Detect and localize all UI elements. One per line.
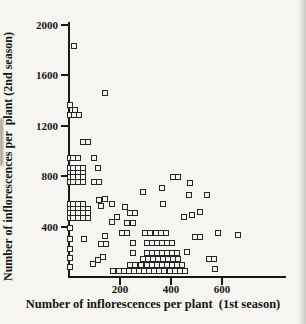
data-point-marker	[109, 201, 115, 207]
data-point-marker	[175, 174, 181, 180]
data-point-marker	[215, 230, 221, 236]
y-tick-label-800: 800	[18, 171, 58, 181]
data-point-marker	[76, 112, 82, 118]
x-axis-title: Number of inflorescences per plant (1st …	[0, 297, 306, 312]
y-tick-label-2000: 2000	[18, 20, 58, 30]
data-point-marker	[184, 249, 190, 255]
y-tick-1600	[61, 74, 69, 76]
y-tick-label-1600: 1600	[18, 70, 58, 80]
data-point-marker	[85, 139, 91, 145]
data-point-marker	[102, 233, 108, 239]
data-point-marker	[212, 266, 218, 272]
data-point-marker	[130, 220, 136, 226]
data-point-marker	[75, 155, 81, 161]
x-tick-label-600: 600	[207, 283, 237, 295]
data-point-marker	[163, 230, 169, 236]
data-point-marker	[130, 240, 136, 246]
data-point-marker	[80, 179, 86, 185]
data-point-marker	[71, 43, 77, 49]
data-point-marker	[96, 179, 102, 185]
data-point-marker	[182, 268, 188, 274]
data-point-marker	[102, 196, 108, 202]
data-point-marker	[67, 225, 73, 231]
x-tick-label-200: 200	[105, 283, 135, 295]
data-point-marker	[187, 180, 193, 186]
y-tick-label-1200: 1200	[18, 121, 58, 131]
data-point-marker	[159, 185, 165, 191]
data-point-marker	[140, 189, 146, 195]
data-point-marker	[67, 264, 73, 270]
data-point-marker	[169, 240, 175, 246]
data-point-marker	[67, 236, 73, 242]
data-point-marker	[186, 192, 192, 198]
data-point-marker	[67, 246, 73, 252]
data-point-marker	[85, 215, 91, 221]
data-point-marker	[124, 220, 130, 226]
y-tick-1200	[61, 125, 69, 127]
data-point-marker	[175, 256, 181, 262]
data-point-marker	[189, 212, 195, 218]
data-point-marker	[197, 209, 203, 215]
data-point-marker	[132, 210, 138, 216]
data-point-marker	[235, 232, 241, 238]
x-tick-label-400: 400	[156, 283, 186, 295]
y-tick-label-400: 400	[18, 222, 58, 232]
data-point-marker	[114, 214, 120, 220]
data-point-marker	[124, 230, 130, 236]
scan-smudge	[0, 118, 3, 166]
data-point-marker	[181, 214, 187, 220]
data-point-marker	[204, 192, 210, 198]
y-tick-2000	[61, 24, 69, 26]
data-point-marker	[102, 90, 108, 96]
data-point-marker	[109, 219, 115, 225]
data-point-marker	[103, 241, 109, 247]
data-point-marker	[160, 201, 166, 207]
data-point-marker	[91, 155, 97, 161]
data-point-marker	[98, 203, 104, 209]
data-point-marker	[130, 250, 136, 256]
scan-edge-shading	[298, 0, 306, 324]
data-point-marker	[95, 165, 101, 171]
data-point-marker	[100, 254, 106, 260]
x-axis-line	[68, 276, 286, 278]
data-point-marker	[197, 234, 203, 240]
data-point-marker	[67, 255, 73, 261]
data-point-marker	[211, 256, 217, 262]
data-point-marker	[81, 236, 87, 242]
scatter-figure: 400800120016002000 200400600 Number of i…	[0, 0, 306, 324]
